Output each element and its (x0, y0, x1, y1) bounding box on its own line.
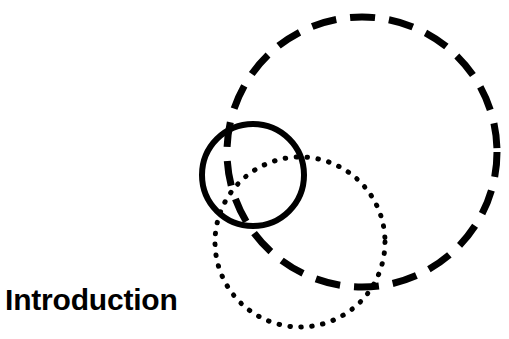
page-title: Introduction (5, 283, 178, 317)
dotted-circle (215, 157, 385, 327)
solid-circle (202, 124, 304, 226)
dashed-circle (227, 17, 497, 287)
slide-canvas: Introduction (0, 0, 509, 339)
